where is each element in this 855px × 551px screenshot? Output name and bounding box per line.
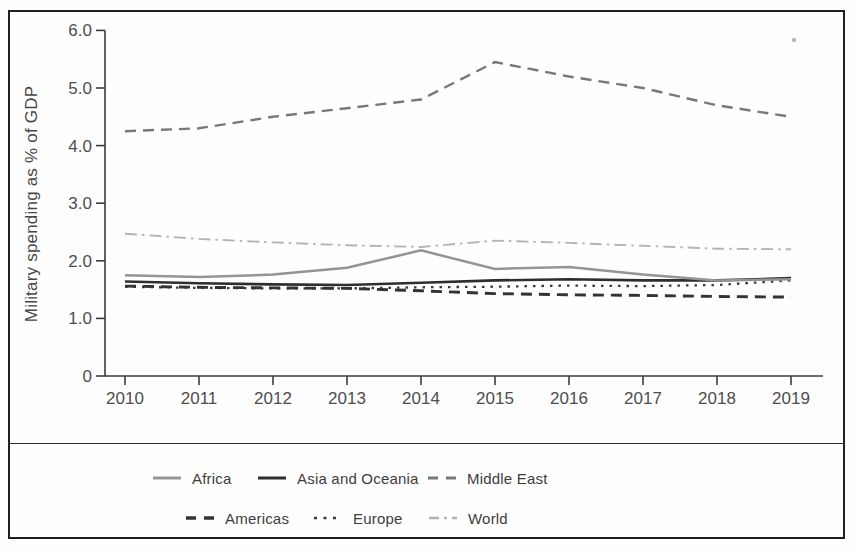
axis-spines bbox=[105, 30, 823, 376]
y-tick-label: 5.0 bbox=[68, 79, 92, 98]
legend-label-asia-and-oceania: Asia and Oceania bbox=[297, 470, 419, 487]
legend-line-middle-east bbox=[428, 473, 456, 483]
y-tick-label: 3.0 bbox=[68, 194, 92, 213]
y-tick-label: 0 bbox=[83, 367, 92, 386]
legend-item-middle-east: Middle East bbox=[428, 468, 548, 488]
x-tick-label: 2016 bbox=[550, 389, 588, 408]
series-line-africa bbox=[125, 250, 791, 280]
y-tick-label: 4.0 bbox=[68, 137, 92, 156]
legend-item-asia-and-oceania: Asia and Oceania bbox=[258, 468, 419, 488]
x-tick-label: 2014 bbox=[402, 389, 440, 408]
legend-line-europe bbox=[314, 513, 342, 523]
x-tick-label: 2013 bbox=[328, 389, 366, 408]
scan-speck bbox=[792, 38, 796, 42]
x-tick-label: 2011 bbox=[181, 389, 218, 408]
legend-label-europe: Europe bbox=[353, 510, 403, 527]
y-tick-label: 6.0 bbox=[68, 21, 92, 40]
y-tick-label: 2.0 bbox=[68, 252, 92, 271]
legend-line-world bbox=[429, 513, 457, 523]
x-tick-label: 2010 bbox=[106, 389, 144, 408]
x-tick-label: 2019 bbox=[772, 389, 810, 408]
y-axis-label: Military spending as % of GDP bbox=[22, 74, 42, 334]
legend-label-world: World bbox=[468, 510, 508, 527]
legend-item-world: World bbox=[429, 508, 508, 528]
legend-line-americas bbox=[186, 513, 214, 523]
series-line-middle-east bbox=[125, 62, 791, 131]
y-tick-label: 1.0 bbox=[68, 309, 92, 328]
legend-divider bbox=[8, 443, 845, 444]
legend-label-middle-east: Middle East bbox=[467, 470, 548, 487]
series-line-world bbox=[125, 234, 791, 250]
x-tick-label: 2012 bbox=[254, 389, 292, 408]
figure-page: 01.02.03.04.05.06.0201020112012201320142… bbox=[0, 0, 855, 551]
legend-label-africa: Africa bbox=[192, 470, 232, 487]
legend-line-asia-and-oceania bbox=[258, 473, 286, 483]
x-tick-label: 2018 bbox=[698, 389, 736, 408]
legend-item-americas: Americas bbox=[186, 508, 289, 528]
legend-item-africa: Africa bbox=[153, 468, 232, 488]
legend-line-africa bbox=[153, 473, 181, 483]
legend-item-europe: Europe bbox=[314, 508, 403, 528]
legend-label-americas: Americas bbox=[225, 510, 289, 527]
x-tick-label: 2017 bbox=[624, 389, 662, 408]
x-tick-label: 2015 bbox=[476, 389, 514, 408]
